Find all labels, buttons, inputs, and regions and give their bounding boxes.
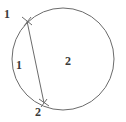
chord-line (27, 21, 44, 103)
point-label-bottom: 2 (35, 106, 41, 118)
geometry-figure: 1 1 2 2 (0, 0, 126, 122)
region-label-left: 1 (16, 59, 22, 71)
region-label-right: 2 (65, 55, 71, 67)
point-label-top: 1 (4, 8, 10, 20)
top-endpoint-tick-icon (22, 17, 32, 26)
